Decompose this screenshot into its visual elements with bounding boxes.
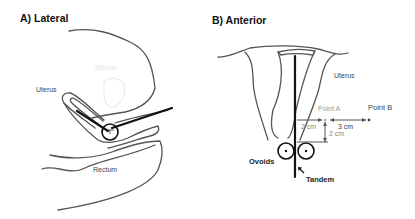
dim-label-2cm-horizontal: 2 cm: [301, 123, 316, 130]
uterus-outline-inner: [70, 98, 103, 124]
uterus-body-lower: [64, 103, 159, 148]
dim-label-2cm-vertical: 2 cm: [329, 130, 344, 137]
bladder-label: Bladder: [95, 64, 118, 71]
lateral-tandem-handle: [112, 108, 172, 128]
ovoids-label: Ovoids: [249, 157, 274, 166]
point-b-label: Point B: [368, 103, 392, 112]
anterior-uterus-label: Uterus: [334, 72, 355, 79]
tandem-label: Tandem: [306, 175, 335, 184]
point-a-marker: [324, 119, 327, 122]
panel-lateral: A) Lateral Bladder Uterus Rectum: [20, 12, 172, 210]
anterior-title: B) Anterior: [212, 14, 266, 26]
dim-label-3cm: 3 cm: [338, 123, 353, 130]
uterus-wall-left: [245, 52, 268, 140]
point-b-marker: [368, 119, 371, 122]
uterine-cavity: [278, 50, 315, 55]
rectum-label: Rectum: [93, 166, 117, 173]
panel-anterior: B) Anterior Uterus Ovoids Tandem 2 cm 2: [212, 14, 392, 184]
lateral-title: A) Lateral: [20, 12, 69, 24]
point-a-label: Point A: [318, 105, 341, 112]
abdomen-outline: [69, 30, 155, 118]
brachytherapy-diagram: A) Lateral Bladder Uterus Rectum B) Ante…: [0, 0, 415, 219]
bladder-outline: [104, 78, 125, 107]
lateral-uterus-label: Uterus: [36, 86, 57, 93]
cavity-left: [272, 52, 282, 138]
rectum-wall-upper: [50, 141, 162, 210]
